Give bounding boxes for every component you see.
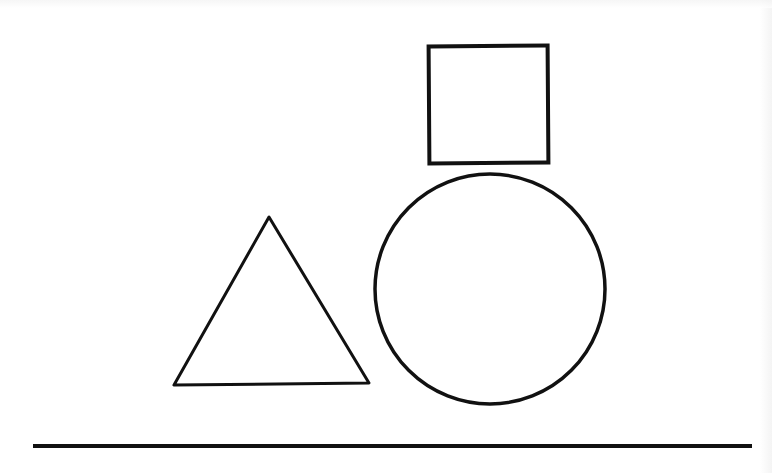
triangle-shape (174, 217, 369, 385)
square-shape (429, 46, 549, 164)
shapes-diagram (0, 0, 772, 473)
circle-shape (375, 174, 605, 404)
diagram-canvas (0, 0, 772, 473)
